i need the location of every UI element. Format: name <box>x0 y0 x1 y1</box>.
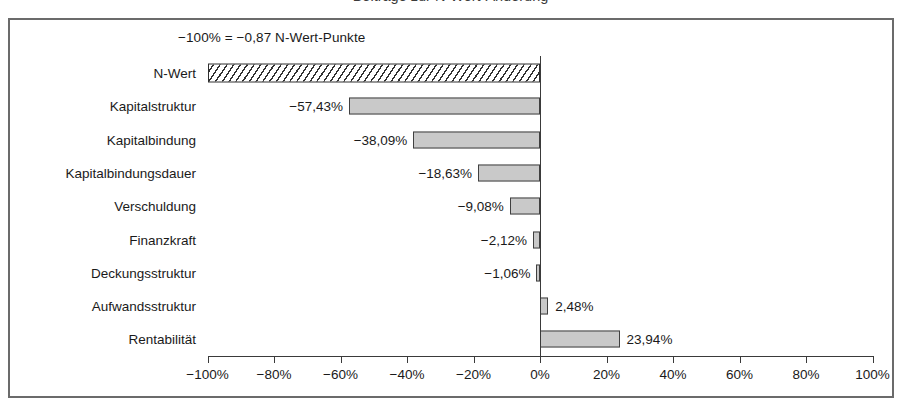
bar-row: Deckungsstruktur−1,06% <box>0 256 901 290</box>
bar-row: Kapitalbindung−38,09% <box>0 123 901 157</box>
bar-value-label: −38,09% <box>0 132 407 147</box>
x-tick-label: 80% <box>792 367 819 382</box>
category-label: Aufwandsstruktur <box>0 299 196 314</box>
x-tick-label: −20% <box>456 367 491 382</box>
x-tick-label: −40% <box>390 367 425 382</box>
x-tick <box>873 356 874 363</box>
bar-row: Kapitalstruktur−57,43% <box>0 89 901 123</box>
x-tick <box>407 356 408 363</box>
bar-value-label: −18,63% <box>0 165 472 180</box>
bar-row: Kapitalbindungsdauer−18,63% <box>0 156 901 190</box>
bar-kapitalbindungsdauer <box>478 164 540 181</box>
bar-value-label: −9,08% <box>0 199 504 214</box>
x-tick-label: 100% <box>855 367 890 382</box>
x-tick <box>540 356 541 363</box>
bar-row: Finanzkraft−2,12% <box>0 223 901 257</box>
bar-n-wert <box>208 64 541 83</box>
bar-aufwandsstruktur <box>540 298 548 315</box>
bar-value-label: 23,94% <box>627 332 673 347</box>
x-tick-label: 20% <box>593 367 620 382</box>
bar-value-label: 2,48% <box>555 299 593 314</box>
scale-annotation: −100% = −0,87 N-Wert-Punkte <box>178 30 365 45</box>
bar-row: Rentabilität23,94% <box>0 322 901 356</box>
bar-value-label: −2,12% <box>0 232 527 247</box>
x-tick <box>740 356 741 363</box>
x-tick <box>208 356 209 363</box>
bar-verschuldung <box>510 198 540 215</box>
x-tick <box>474 356 475 363</box>
bar-kapitalstruktur <box>349 98 540 115</box>
x-tick-label: −60% <box>323 367 358 382</box>
bar-row: Aufwandsstruktur2,48% <box>0 289 901 323</box>
category-label: N-Wert <box>0 66 196 81</box>
x-tick-label: −100% <box>186 367 228 382</box>
bar-rentabilit-t <box>540 331 620 348</box>
bar-finanzkraft <box>533 231 540 248</box>
bar-kapitalbindung <box>413 131 540 148</box>
x-tick <box>673 356 674 363</box>
category-label: Rentabilität <box>0 332 196 347</box>
zero-axis-line <box>540 56 541 356</box>
x-tick-label: 60% <box>726 367 753 382</box>
x-tick <box>607 356 608 363</box>
chart-title: Beiträge zur N-Wert-Änderung <box>0 0 901 4</box>
bar-row: N-Wert <box>0 56 901 90</box>
x-tick-label: 0% <box>530 367 550 382</box>
x-tick <box>274 356 275 363</box>
x-tick <box>806 356 807 363</box>
x-tick <box>341 356 342 363</box>
bar-value-label: −1,06% <box>0 265 530 280</box>
x-tick-label: −80% <box>257 367 292 382</box>
bar-row: Verschuldung−9,08% <box>0 189 901 223</box>
bar-value-label: −57,43% <box>0 99 343 114</box>
x-tick-label: 40% <box>659 367 686 382</box>
